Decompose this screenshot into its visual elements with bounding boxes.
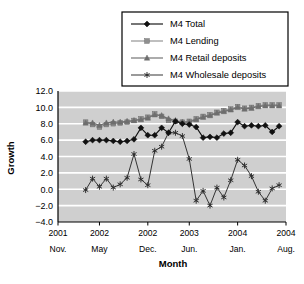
y-tick-label: 6.0 bbox=[40, 135, 53, 145]
y-tick-label: 8.0 bbox=[40, 119, 53, 129]
x-tick-month: May bbox=[91, 244, 108, 254]
growth-line-chart: 12.010.08.06.04.02.00.0−2.0−4.0 2001Nov.… bbox=[0, 0, 304, 284]
x-axis-tick-labels: 2001Nov.2002May2002Dec.2003Jun.2004Jan.2… bbox=[48, 222, 295, 254]
x-tick-year: 2002 bbox=[138, 228, 157, 238]
x-axis-title: Month bbox=[159, 258, 188, 269]
y-tick-label: 10.0 bbox=[35, 103, 53, 113]
x-tick-year: 2003 bbox=[180, 228, 199, 238]
y-tick-label: 0.0 bbox=[40, 185, 53, 195]
x-tick-month: Jun. bbox=[181, 244, 197, 254]
x-tick-year: 2002 bbox=[90, 228, 109, 238]
chart-figure: 12.010.08.06.04.02.00.0−2.0−4.0 2001Nov.… bbox=[0, 0, 304, 284]
y-tick-label: 2.0 bbox=[40, 168, 53, 178]
x-tick-year: 2004 bbox=[228, 228, 247, 238]
y-tick-label: −2.0 bbox=[35, 201, 53, 211]
chart-legend: M4 TotalM4 LendingM4 Retail depositsM4 W… bbox=[122, 12, 288, 86]
y-tick-label: 12.0 bbox=[35, 86, 53, 96]
x-tick-month: Jan. bbox=[230, 244, 246, 254]
x-tick-year: 2004 bbox=[276, 228, 295, 238]
x-tick-month: Aug. bbox=[277, 244, 295, 254]
y-axis-title: Growth bbox=[5, 141, 16, 174]
x-tick-month: Nov. bbox=[49, 244, 66, 254]
legend-label: M4 Lending bbox=[170, 36, 219, 46]
y-axis-tick-labels: 12.010.08.06.04.02.00.0−2.0−4.0 bbox=[35, 86, 53, 227]
marker-square bbox=[145, 39, 150, 44]
x-tick-month: Dec. bbox=[139, 244, 157, 254]
y-tick-label: −4.0 bbox=[35, 217, 53, 227]
y-tick-label: 4.0 bbox=[40, 152, 53, 162]
legend-label: M4 Wholesale deposits bbox=[170, 70, 266, 80]
x-tick-year: 2001 bbox=[48, 228, 67, 238]
legend-label: M4 Total bbox=[170, 19, 205, 29]
legend-label: M4 Retail deposits bbox=[170, 53, 247, 63]
